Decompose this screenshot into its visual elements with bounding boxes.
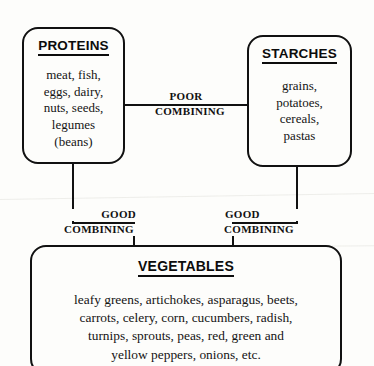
box-proteins-list-line: nuts, seeds,	[24, 100, 123, 117]
connector-label-poor-word-top: POOR	[152, 91, 220, 103]
connector-label-poor-combining: POOR COMBINING	[152, 91, 220, 118]
box-vegetables-list-line: leafy greens, artichokes, asparagus, bee…	[32, 291, 340, 309]
box-vegetables-list-line: turnips, sprouts, peas, red, green and	[32, 327, 340, 345]
box-proteins-list-line: meat, fish,	[24, 67, 123, 84]
box-starches-list-line: potatoes,	[249, 95, 350, 112]
box-proteins-list-line: legumes	[24, 117, 123, 134]
scan-artifact-streak	[0, 193, 374, 200]
box-vegetables-food-list: leafy greens, artichokes, asparagus, bee…	[32, 291, 340, 364]
connector-label-poor-word-bottom: COMBINING	[152, 106, 220, 118]
box-starches-food-list: grains, potatoes, cereals, pastas	[249, 78, 350, 145]
box-proteins-list-line: eggs, dairy,	[24, 84, 123, 101]
box-proteins: PROTEINS meat, fish, eggs, dairy, nuts, …	[22, 27, 125, 164]
box-proteins-title: PROTEINS	[24, 38, 123, 56]
box-vegetables-list-line: carrots, celery, corn, cucumbers, radish…	[32, 309, 340, 327]
box-proteins-food-list: meat, fish, eggs, dairy, nuts, seeds, le…	[24, 67, 123, 150]
connector-label-good-left-word-bottom: COMBINING	[61, 224, 137, 236]
box-starches-list-line: cereals,	[249, 111, 350, 128]
box-starches-title: STARCHES	[249, 46, 350, 64]
connector-label-good-right-word-bottom: COMBINING	[219, 224, 299, 236]
box-vegetables-title: VEGETABLES	[32, 258, 340, 277]
box-vegetables: VEGETABLES leafy greens, artichokes, asp…	[30, 245, 342, 366]
box-proteins-list-line: (beans)	[24, 134, 123, 151]
box-starches-list-line: pastas	[249, 128, 350, 145]
connector-label-good-right-word-top: GOOD	[219, 209, 299, 221]
connector-label-good-left-word-top: GOOD	[61, 209, 137, 221]
box-vegetables-list-line: yellow peppers, onions, etc.	[32, 346, 340, 364]
box-starches-list-line: grains,	[249, 78, 350, 95]
box-starches: STARCHES grains, potatoes, cereals, past…	[247, 35, 352, 167]
connector-label-good-combining-right: GOOD COMBINING	[219, 209, 299, 236]
food-combining-diagram: POOR COMBINING GOOD COMBINING GOOD COMBI…	[0, 0, 374, 366]
connector-label-good-combining-left: GOOD COMBINING	[61, 209, 137, 236]
